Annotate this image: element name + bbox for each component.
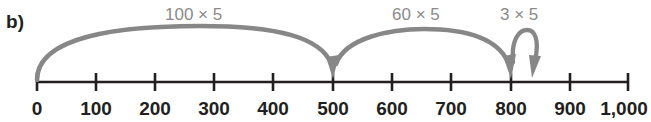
jump-label-3x5: 3 × 5 xyxy=(500,6,538,23)
jump-arc-60x5 xyxy=(336,29,508,64)
tick-label-1000: 1,000 xyxy=(600,99,648,118)
tick-label-800: 800 xyxy=(495,99,527,118)
tick-label-0: 0 xyxy=(32,99,43,118)
tick-label-900: 900 xyxy=(554,99,586,118)
tick-label-400: 400 xyxy=(257,99,289,118)
tick-label-500: 500 xyxy=(317,99,349,118)
jump-label-60x5: 60 × 5 xyxy=(392,6,440,23)
jump-arrowhead-3x5 xyxy=(529,55,541,78)
jump-arc-100x5 xyxy=(37,26,331,80)
jump-label-100x5: 100 × 5 xyxy=(165,6,222,23)
tick-label-700: 700 xyxy=(435,99,467,118)
tick-label-200: 200 xyxy=(139,99,171,118)
tick-label-100: 100 xyxy=(80,99,112,118)
number-line-figure: b) 100 × 5 60 × 5 3 × 5 xyxy=(0,0,651,122)
tick-label-600: 600 xyxy=(376,99,408,118)
tick-label-300: 300 xyxy=(198,99,230,118)
